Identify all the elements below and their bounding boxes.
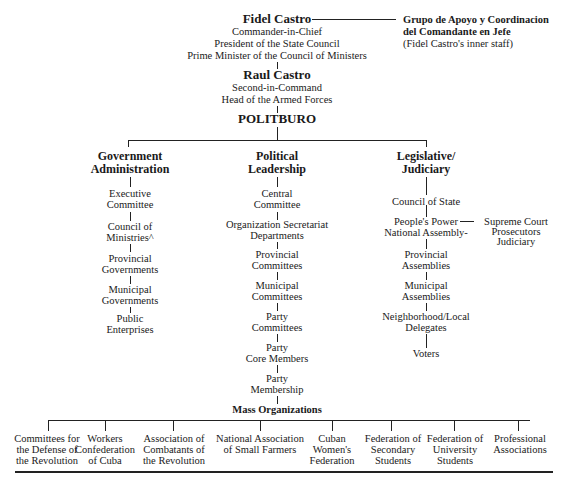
connector	[277, 365, 278, 373]
leg-item: Voters	[413, 348, 440, 360]
mass-org-farmers-2: of Small Farmers	[224, 444, 297, 456]
connector	[426, 177, 427, 195]
gov-item: Committee	[107, 199, 154, 211]
leader-title-2: President of the State Council	[214, 38, 339, 50]
connector	[173, 420, 174, 431]
leader-title-1: Commander-in-Chief	[232, 26, 322, 38]
pol-item: Committees	[252, 322, 303, 334]
connector	[260, 420, 261, 431]
leader-to-staff-connector	[312, 19, 396, 20]
mass-organizations-title: Mass Organizations	[232, 404, 322, 416]
gov-item: Ministries^	[106, 232, 154, 244]
connector	[426, 272, 427, 280]
leg-item: Assemblies	[402, 291, 450, 303]
connector	[518, 420, 519, 431]
bottom-rule	[15, 471, 553, 473]
mass-org-women-3: Federation	[310, 455, 355, 467]
pol-item: Committees	[252, 291, 303, 303]
mass-org-combatants-3: the Revolution	[143, 455, 205, 467]
mass-org-cdr-3: the Revolution	[16, 455, 78, 467]
assembly-to-judiciary-connector	[460, 221, 474, 222]
second-title-1: Second-in-Command	[232, 82, 322, 94]
connector	[454, 420, 455, 431]
mass-org-secondary-3: Students	[375, 455, 411, 467]
gov-item: Enterprises	[106, 324, 153, 336]
connector	[128, 140, 129, 147]
branch-title-political-2: Leadership	[248, 163, 306, 176]
inner-staff-line-1: Grupo de Apoyo y Coordinacion	[403, 14, 549, 26]
connector	[48, 420, 49, 431]
second-name: Raul Castro	[243, 68, 310, 82]
pol-item: Committee	[254, 199, 301, 211]
gov-item: Governments	[102, 264, 159, 276]
leg-item: Assemblies	[402, 260, 450, 272]
connector	[332, 420, 333, 431]
gov-item: Governments	[102, 295, 159, 307]
inner-staff-line-3: (Fidel Castro's inner staff)	[403, 38, 513, 50]
branch-title-legislative-2: Judiciary	[402, 163, 451, 176]
mass-org-university-3: Students	[437, 455, 473, 467]
connector	[130, 244, 131, 252]
connector	[426, 239, 427, 249]
connector	[277, 396, 278, 404]
pol-item: Departments	[250, 230, 304, 242]
mass-org-connector	[48, 420, 530, 421]
connector	[277, 303, 278, 311]
branch-title-government-2: Administration	[91, 163, 170, 176]
leg-item: Delegates	[405, 322, 446, 334]
connector	[426, 140, 427, 147]
pol-item: Membership	[250, 384, 303, 396]
connector	[426, 334, 427, 348]
connector	[277, 177, 278, 187]
connector	[277, 242, 278, 249]
pol-item: Committees	[252, 260, 303, 272]
mass-org-workers-3: of Cuba	[88, 455, 122, 467]
connector	[277, 127, 278, 141]
connector	[391, 420, 392, 431]
inner-staff-line-2: del Comandante en Jefe	[403, 26, 511, 38]
connector	[426, 303, 427, 311]
connector	[130, 276, 131, 284]
leader-name: Fidel Castro	[243, 12, 312, 26]
connector	[277, 272, 278, 280]
connector	[277, 334, 278, 342]
connector	[130, 212, 131, 221]
politburo-label: POLITBURO	[238, 112, 316, 126]
connector	[105, 420, 106, 431]
mass-org-professional-2: Associations	[493, 444, 547, 456]
judiciary-line-3: Judiciary	[497, 236, 536, 248]
leg-item: National Assembly-	[384, 227, 468, 239]
pol-item: Core Members	[246, 353, 309, 365]
branch-connector	[128, 140, 426, 141]
second-title-2: Head of the Armed Forces	[222, 94, 333, 106]
leader-title-3: Prime Minister of the Council of Ministe…	[187, 50, 367, 62]
connector	[130, 177, 131, 187]
